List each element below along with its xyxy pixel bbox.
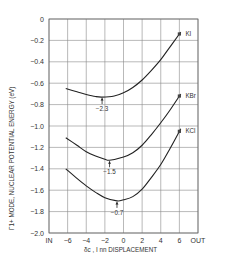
arrowhead-icon <box>108 161 111 164</box>
minimum-label-kbr: −1.5 <box>103 168 116 175</box>
y-tick-label: −1.2 <box>30 144 44 151</box>
y-tick-label: −1.0 <box>30 123 44 130</box>
series-label-kbr: KBr <box>185 92 196 99</box>
minimum-label-kcl: −0.7 <box>111 209 124 216</box>
endpoint-marker <box>178 94 181 97</box>
annotations: KI−2.3KBr−1.5KCl−0.7 <box>96 30 196 216</box>
y-axis-ticks: 0−0.2−0.4−0.6−0.8−1.0−1.2−1.4−1.6−1.8−2.… <box>30 16 44 237</box>
series-label-kcl: KCl <box>185 127 195 134</box>
y-tick-label: −1.4 <box>30 165 44 172</box>
y-tick-label: −1.8 <box>30 208 44 215</box>
x-tick-label: 2 <box>140 237 144 244</box>
y-tick-label: −1.6 <box>30 187 44 194</box>
y-tick-label: −2.0 <box>30 230 44 237</box>
y-tick-label: −0.6 <box>30 80 44 87</box>
grid <box>49 19 198 233</box>
x-axis-ticks: IN−6−4−20246OUT <box>46 237 207 244</box>
x-tick-label: −2 <box>101 237 109 244</box>
y-tick-label: −0.2 <box>30 37 44 44</box>
x-tick-label: −6 <box>64 237 72 244</box>
minimum-label-ki: −2.3 <box>96 105 109 112</box>
arrowhead-icon <box>101 98 104 101</box>
arrowhead-icon <box>115 202 118 205</box>
y-tick-label: 0 <box>40 16 44 23</box>
x-tick-label: 4 <box>159 237 163 244</box>
endpoint-marker <box>178 130 181 133</box>
x-tick-label: OUT <box>191 237 207 244</box>
y-axis-label: Γ1+ MODE, NUCLEAR POTENTIAL ENERGY (eV) <box>8 87 16 230</box>
series-label-ki: KI <box>185 30 191 37</box>
x-tick-label: 0 <box>122 237 126 244</box>
x-axis-label: δc , I nn DISPLACEMENT <box>84 246 157 253</box>
potential-energy-chart: 0−0.2−0.4−0.6−0.8−1.0−1.2−1.4−1.6−1.8−2.… <box>0 0 232 266</box>
x-tick-label: −4 <box>82 237 90 244</box>
endpoint-marker <box>178 32 181 35</box>
x-tick-label: IN <box>46 237 53 244</box>
y-tick-label: −0.4 <box>30 58 44 65</box>
x-tick-label: 6 <box>177 237 181 244</box>
y-tick-label: −0.8 <box>30 101 44 108</box>
